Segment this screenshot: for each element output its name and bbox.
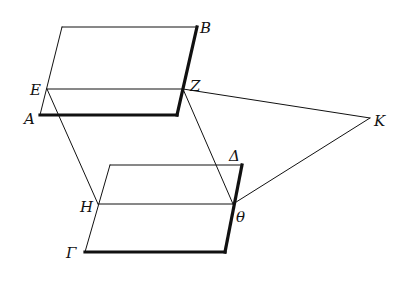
label-Delta: Δ [228,147,240,165]
label-Theta: θ [236,208,245,226]
line-theta-K [233,118,370,204]
label-E: E [29,81,41,99]
label-K: K [373,112,386,130]
label-Z: Z [189,77,201,95]
connecting-lines [47,89,370,204]
label-A: A [22,110,35,128]
point-labels: B E Z A K Δ H θ Γ [22,19,386,262]
geometry-figure: B E Z A K Δ H θ Γ [0,0,406,286]
label-H: H [79,198,94,216]
upper-plane [40,27,197,115]
label-Gamma: Γ [65,244,77,262]
label-B: B [199,19,211,37]
line-ZK [183,89,370,118]
line-EH [47,89,98,204]
upper-plane-right-edge-bold [177,27,197,115]
upper-plane-left-edge [40,27,62,115]
line-Z-theta [183,89,233,204]
lower-plane [85,165,242,252]
